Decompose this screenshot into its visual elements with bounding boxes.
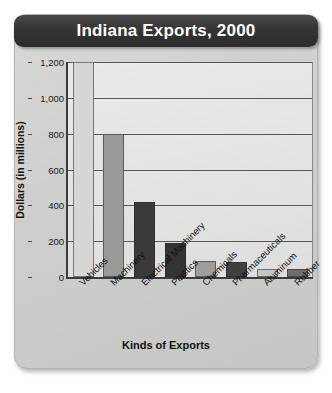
- y-tick-label: 600: [28, 164, 64, 175]
- y-tick-label: 0: [28, 272, 64, 283]
- y-tick-label: 1,200: [28, 57, 64, 68]
- y-axis-title: Dollars (in millions): [14, 121, 26, 218]
- chart-title: Indiana Exports, 2000: [77, 21, 256, 41]
- y-tick-mark: [28, 62, 32, 63]
- chart-figure: Indiana Exports, 2000 Dollars (in millio…: [0, 0, 332, 393]
- y-tick-label: 1,000: [28, 92, 64, 103]
- y-tick-label: 800: [28, 128, 64, 139]
- y-tick-mark: [28, 241, 32, 242]
- x-axis-title: Kinds of Exports: [14, 339, 318, 351]
- bar-machinery: [103, 134, 124, 277]
- y-axis-title-wrap: Dollars (in millions): [11, 62, 29, 277]
- y-tick-label: 200: [28, 236, 64, 247]
- y-tick-mark: [28, 205, 32, 206]
- y-tick-label: 400: [28, 200, 64, 211]
- y-tick-mark: [28, 170, 32, 171]
- y-tick-mark: [28, 277, 32, 278]
- chart-title-bar: Indiana Exports, 2000: [14, 15, 318, 47]
- y-tick-mark: [28, 98, 32, 99]
- y-axis-tick-labels: 02004006008001,0001,200: [28, 62, 64, 277]
- y-tick-mark: [28, 134, 32, 135]
- bar-vehicles: [73, 62, 94, 277]
